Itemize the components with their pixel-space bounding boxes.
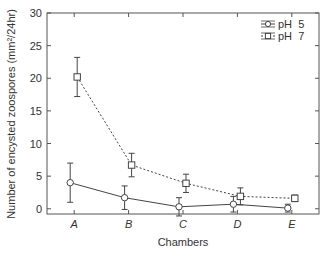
legend-square-marker: [265, 33, 270, 38]
y-tick-label: 10: [30, 138, 42, 150]
circle-marker: [285, 205, 291, 211]
legend-label: pH 5: [278, 18, 304, 30]
y-tick-label: 25: [30, 40, 42, 52]
circle-marker: [176, 204, 182, 210]
y-tick-label: 0: [36, 203, 42, 215]
line-chart: 051015202530 ABCDE pH 5pH 7 Chambers Num…: [0, 0, 330, 257]
y-axis-title: Number of encysted zoospores (mm²/24hr): [5, 9, 17, 219]
series-layer: [67, 57, 298, 216]
x-axis-title: Chambers: [158, 236, 209, 248]
square-marker: [128, 162, 134, 168]
legend-circle-marker: [265, 21, 270, 26]
circle-marker: [230, 201, 236, 207]
y-tick-label: 20: [30, 72, 42, 84]
square-marker: [292, 195, 298, 201]
square-marker: [237, 193, 243, 199]
y-tick-label: 30: [30, 7, 42, 19]
y-tick-label: 15: [30, 105, 42, 117]
legend-item: pH 5: [261, 18, 304, 30]
legend-item: pH 7: [261, 30, 304, 42]
x-tick-label: E: [288, 218, 296, 230]
circle-marker: [121, 194, 127, 200]
series-ph-7: [74, 57, 298, 204]
square-marker: [74, 74, 80, 80]
series-ph-5: [67, 163, 291, 216]
square-marker: [183, 180, 189, 186]
x-axis-ticks: ABCDE: [70, 13, 297, 230]
legend-label: pH 7: [278, 30, 304, 42]
x-tick-label: B: [125, 218, 132, 230]
x-tick-label: C: [179, 218, 187, 230]
circle-marker: [67, 179, 73, 185]
y-tick-label: 5: [36, 170, 42, 182]
x-tick-label: D: [233, 218, 241, 230]
legend: pH 5pH 7: [261, 18, 304, 42]
x-tick-label: A: [70, 218, 78, 230]
